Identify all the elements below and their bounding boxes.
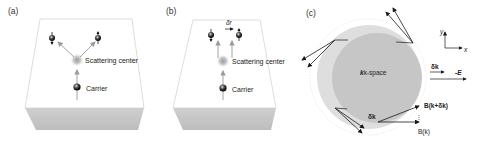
panel-b-label: (b) bbox=[166, 6, 177, 16]
b-label: B(k) bbox=[418, 128, 430, 136]
kspace-label: kk-space bbox=[360, 69, 387, 77]
dk-bottom-label: δk bbox=[368, 113, 376, 120]
scattering-center-label: Scattering center bbox=[232, 58, 286, 66]
axis-y-label: y bbox=[439, 28, 444, 36]
panel-c-label: (c) bbox=[306, 8, 316, 18]
carrier-label: Carrier bbox=[232, 86, 254, 93]
b-shifted-label: B(k+δk) bbox=[424, 102, 448, 110]
carrier-icon bbox=[219, 84, 226, 91]
panel-a-label: (a) bbox=[8, 6, 19, 16]
panel-c: (c) kk-space δk bbox=[302, 8, 468, 136]
carrier-icon bbox=[73, 83, 80, 90]
xy-axes: y x bbox=[439, 28, 468, 53]
scattering-center-label: Scattering center bbox=[85, 57, 139, 65]
kspace-circle bbox=[332, 33, 422, 123]
delta-k-label: δk bbox=[431, 63, 439, 70]
panel-b: (b) δr Scattering center Carrier bbox=[166, 6, 286, 130]
box-front-face bbox=[173, 108, 276, 130]
shift-label: δr bbox=[226, 19, 233, 26]
panel-a: (a) Scattering center Carrier bbox=[8, 6, 144, 130]
box-front-face bbox=[25, 108, 144, 130]
field-label: -E bbox=[455, 69, 462, 76]
axis-x-label: x bbox=[463, 46, 468, 53]
carrier-label: Carrier bbox=[86, 85, 108, 92]
diagram-canvas: (a) Scattering center Carrier (b) bbox=[0, 0, 486, 145]
